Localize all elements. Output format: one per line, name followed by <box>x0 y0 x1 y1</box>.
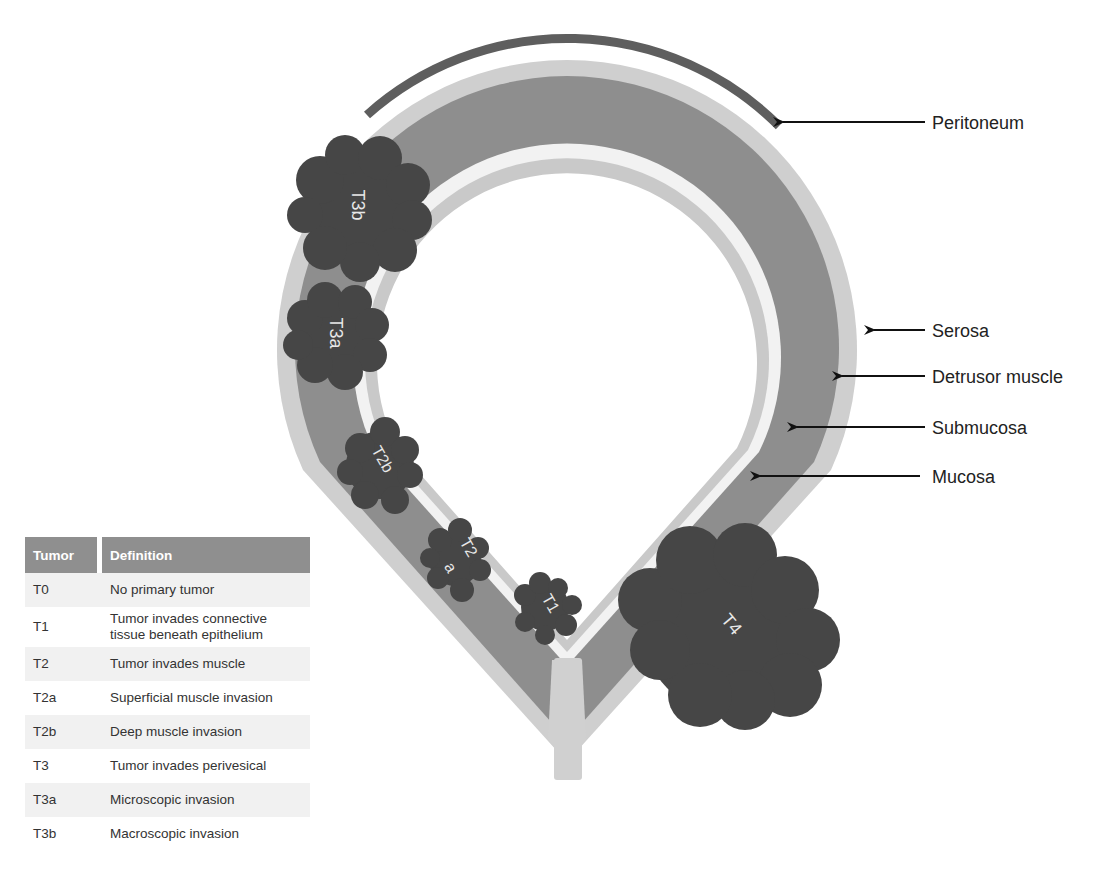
table-row: T3 Tumor invades perivesical <box>25 749 310 783</box>
stage-cell: T3 <box>25 749 102 783</box>
svg-text:Serosa: Serosa <box>932 321 990 341</box>
definition-cell: Tumor invades muscle <box>102 647 310 681</box>
stage-cell: T3a <box>25 783 102 817</box>
label-detrusor-muscle: Detrusor muscle <box>842 367 1063 387</box>
tumor-label-t3a: T3a <box>326 317 346 349</box>
svg-text:Detrusor muscle: Detrusor muscle <box>932 367 1063 387</box>
stage-cell: T2a <box>25 681 102 715</box>
stage-cell: T1 <box>25 607 102 647</box>
table-row: T3a Microscopic invasion <box>25 783 310 817</box>
definition-line: Tumor invades connective <box>110 611 302 627</box>
label-peritoneum: Peritoneum <box>783 113 1024 133</box>
table-row: T2a Superficial muscle invasion <box>25 681 310 715</box>
definition-cell: Tumor invades connective tissue beneath … <box>102 607 310 647</box>
stage-cell: T3b <box>25 817 102 851</box>
definition-line: tissue beneath epithelium <box>110 627 302 643</box>
svg-text:Submucosa: Submucosa <box>932 418 1028 438</box>
stage-cell: T2 <box>25 647 102 681</box>
table-row: T1 Tumor invades connective tissue benea… <box>25 607 310 647</box>
stage-cell: T2b <box>25 715 102 749</box>
tumor-staging-table: Tumor Definition T0 No primary tumor T1 … <box>25 537 310 851</box>
table-header-row: Tumor Definition <box>25 537 310 573</box>
definition-cell: Microscopic invasion <box>102 783 310 817</box>
svg-text:Mucosa: Mucosa <box>932 467 996 487</box>
table-row: T2b Deep muscle invasion <box>25 715 310 749</box>
definition-cell: Deep muscle invasion <box>102 715 310 749</box>
svg-text:Peritoneum: Peritoneum <box>932 113 1024 133</box>
definition-cell: Tumor invades perivesical <box>102 749 310 783</box>
label-serosa: Serosa <box>874 321 990 341</box>
table-row: T3b Macroscopic invasion <box>25 817 310 851</box>
definition-cell: Macroscopic invasion <box>102 817 310 851</box>
definition-cell: No primary tumor <box>102 573 310 607</box>
definition-cell: Superficial muscle invasion <box>102 681 310 715</box>
table-row: T0 No primary tumor <box>25 573 310 607</box>
column-header-tumor: Tumor <box>25 537 102 573</box>
table-row: T2 Tumor invades muscle <box>25 647 310 681</box>
column-header-definition: Definition <box>102 537 310 573</box>
tumor-label-t3b: T3b <box>348 189 368 220</box>
stage-cell: T0 <box>25 573 102 607</box>
